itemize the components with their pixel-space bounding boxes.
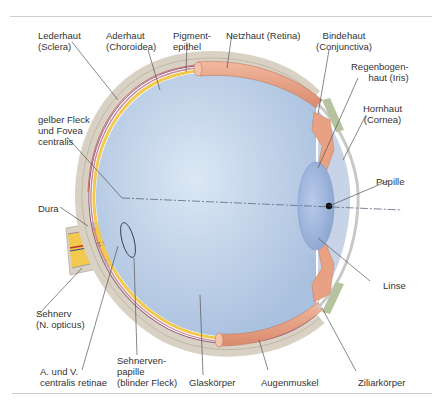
- label-dura: Dura: [38, 203, 59, 214]
- label-bindehaut: Bindehaut (Conjunctiva): [316, 30, 372, 52]
- label-aderhaut: Aderhaut (Choroidea): [106, 30, 156, 52]
- label-regenbogenhaut: Regenbogen- haut (Iris): [351, 61, 409, 83]
- label-centralis-retinae: A. und V. centralis retinae: [40, 366, 107, 388]
- label-hornhaut: Hornhaut (Cornea): [363, 103, 402, 125]
- label-augenmuskel: Augenmuskel: [261, 377, 319, 388]
- label-ziliarkoerper: Ziliarkörper: [358, 377, 406, 388]
- label-pigmentepithel: Pigment- epithel: [173, 30, 211, 52]
- label-netzhaut: Netzhaut (Retina): [226, 30, 300, 41]
- label-linse: Linse: [383, 280, 406, 291]
- label-sehnerv: Sehnerv (N. opticus): [36, 308, 85, 330]
- label-glaskoerper: Glaskörper: [189, 377, 235, 388]
- label-lederhaut: Lederhaut (Sclera): [38, 30, 81, 52]
- label-pupille: Pupille: [376, 176, 405, 187]
- label-sehnervenpapille: Sehnerven- papille (blinder Fleck): [117, 355, 177, 388]
- vitreous-body: [96, 72, 316, 337]
- label-gelber-fleck: gelber Fleck und Fovea centralis: [38, 114, 90, 147]
